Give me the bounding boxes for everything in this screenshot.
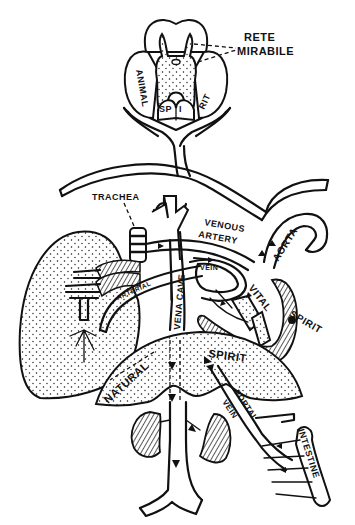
label-mirabile: MIRABILE — [237, 45, 294, 57]
label-sp: SP — [159, 104, 172, 114]
trachea-pointer — [124, 203, 134, 226]
galen-physiology-diagram: ANIMAL SP I RIT RETE MIRABILE TRACHEA — [0, 0, 355, 525]
label-i: I — [179, 104, 182, 114]
carotid-arch — [60, 146, 328, 220]
trachea — [130, 228, 146, 262]
label-rete: RETE — [244, 31, 275, 43]
label-trachea: TRACHEA — [92, 192, 140, 202]
kidneys — [132, 412, 231, 462]
label-vein: VEIN — [200, 264, 218, 271]
intestine — [262, 427, 330, 506]
